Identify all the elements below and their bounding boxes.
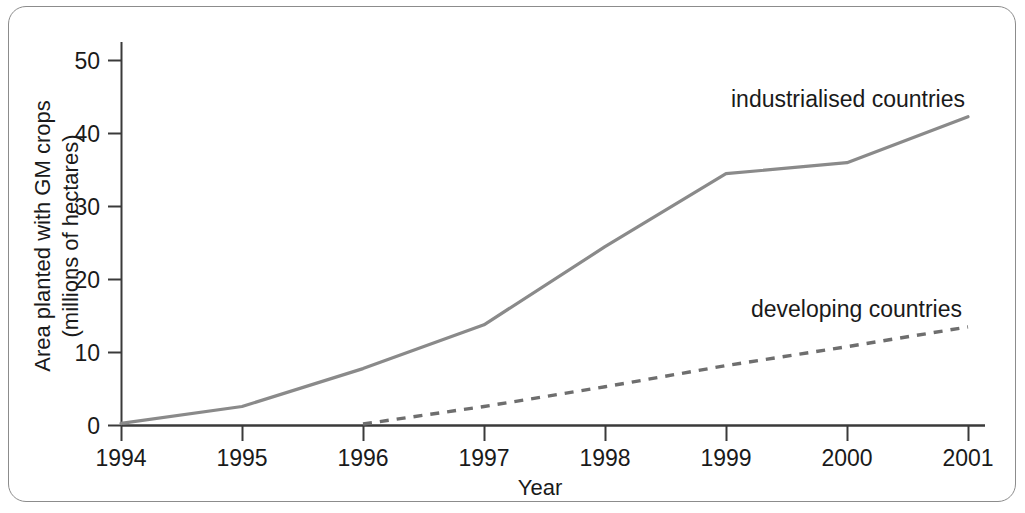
x-tick-label-1999: 1999 — [700, 445, 751, 471]
chart-figure: 0 10 20 30 40 50 1994 1995 1996 1997 199… — [0, 0, 1025, 513]
y-tick-label-50: 50 — [74, 48, 100, 74]
series-line-developing-countries — [363, 327, 968, 424]
y-axis-title-line-1: Area planted with GM crops — [30, 100, 55, 371]
y-axis-ticks — [108, 61, 122, 426]
x-tick-label-2000: 2000 — [821, 445, 872, 471]
y-axis-title-line-2: (millions of hectares) — [58, 135, 83, 338]
line-chart-plot: 0 10 20 30 40 50 1994 1995 1996 1997 199… — [0, 0, 1025, 513]
x-axis-ticks — [122, 426, 969, 442]
x-tick-label-1997: 1997 — [458, 445, 509, 471]
x-tick-label-1994: 1994 — [95, 445, 146, 471]
series-line-industrialised-countries — [121, 117, 968, 424]
x-tick-label-1996: 1996 — [337, 445, 388, 471]
series-label-industrialised-countries: industrialised countries — [731, 86, 965, 112]
x-tick-label-1995: 1995 — [216, 445, 267, 471]
y-tick-label-10: 10 — [74, 340, 100, 366]
x-tick-label-2001: 2001 — [942, 445, 993, 471]
y-tick-label-0: 0 — [87, 413, 100, 439]
series-label-developing-countries: developing countries — [751, 296, 962, 322]
x-axis-title: Year — [518, 475, 562, 500]
x-tick-label-1998: 1998 — [579, 445, 630, 471]
